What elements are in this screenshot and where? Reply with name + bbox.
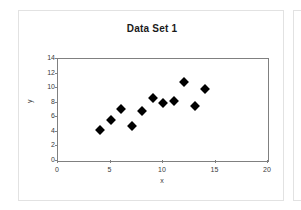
y-tick-label: 10 xyxy=(39,83,55,91)
data-point[interactable] xyxy=(190,101,200,111)
y-tick-label: 0 xyxy=(39,156,55,164)
x-tick-label: 10 xyxy=(152,166,172,174)
x-tick-mark xyxy=(57,160,58,163)
y-tick-label: 4 xyxy=(39,127,55,135)
plot-area[interactable] xyxy=(57,58,269,162)
y-tick-label: 14 xyxy=(39,54,55,62)
x-axis-label: x xyxy=(57,177,267,184)
data-point[interactable] xyxy=(127,121,137,131)
x-axis-ticks: 05101520 xyxy=(57,160,269,176)
data-point[interactable] xyxy=(116,104,126,114)
chart-panel[interactable]: Data Set 1 y 02468101214 05101520 x xyxy=(18,10,284,201)
x-tick-mark xyxy=(215,160,216,163)
x-tick-label: 20 xyxy=(257,166,277,174)
data-point[interactable] xyxy=(158,98,168,108)
chart-title: Data Set 1 xyxy=(19,23,285,34)
y-tick-label: 8 xyxy=(39,98,55,106)
adjacent-panel-sliver xyxy=(293,10,301,201)
y-axis-label: y xyxy=(26,100,33,104)
y-tick-label: 6 xyxy=(39,112,55,120)
data-point[interactable] xyxy=(200,84,210,94)
x-tick-label: 0 xyxy=(47,166,67,174)
data-point[interactable] xyxy=(169,96,179,106)
y-tick-label: 2 xyxy=(39,141,55,149)
x-tick-mark xyxy=(267,160,268,163)
data-point[interactable] xyxy=(179,77,189,87)
data-point[interactable] xyxy=(137,106,147,116)
x-tick-mark xyxy=(162,160,163,163)
x-tick-mark xyxy=(110,160,111,163)
y-axis-ticks: 02468101214 xyxy=(37,58,55,160)
data-point[interactable] xyxy=(95,125,105,135)
data-point[interactable] xyxy=(148,93,158,103)
data-point[interactable] xyxy=(106,115,116,125)
x-tick-label: 5 xyxy=(100,166,120,174)
y-tick-label: 12 xyxy=(39,69,55,77)
x-tick-label: 15 xyxy=(205,166,225,174)
page-surface: Data Set 1 y 02468101214 05101520 x xyxy=(0,0,301,210)
